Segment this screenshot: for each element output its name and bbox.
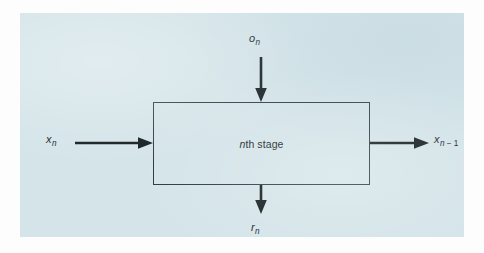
label-input-top: on — [249, 33, 260, 44]
nth-stage-block: nth stage — [153, 102, 370, 185]
arrow-input-top — [254, 57, 268, 103]
figure-root: nth stage on xn xn − 1 rn — [0, 0, 484, 253]
label-output-bottom: rn — [251, 222, 259, 233]
nth-stage-label: nth stage — [154, 103, 369, 184]
label-output-bottom-subscript: n — [255, 227, 260, 236]
nth-stage-label-rest: th stage — [245, 138, 283, 150]
label-input-left-subscript: n — [52, 139, 57, 148]
figure-panel: nth stage on xn xn − 1 rn — [20, 13, 464, 237]
label-input-left: xn — [46, 134, 56, 145]
label-output-right-subscript-op: − 1 — [444, 139, 458, 148]
label-output-right-subscript: n − 1 — [440, 139, 458, 148]
label-input-left-symbol: x — [46, 133, 52, 145]
arrow-output-right — [370, 136, 430, 150]
arrow-input-left — [75, 136, 154, 150]
arrow-output-bottom — [254, 185, 268, 215]
label-input-top-subscript: n — [256, 38, 261, 47]
label-output-right: xn − 1 — [434, 134, 458, 145]
label-input-top-symbol: o — [249, 32, 255, 44]
label-output-right-symbol: x — [434, 133, 440, 145]
